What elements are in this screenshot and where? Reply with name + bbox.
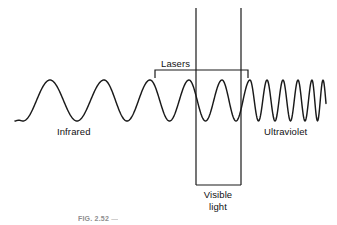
spectrum-diagram-svg — [0, 0, 337, 225]
figure-caption-number: FIG. 2.52 — [78, 215, 109, 222]
lasers-bracket-path — [155, 70, 248, 78]
label-infrared: Infrared — [57, 126, 91, 137]
label-ultraviolet: Ultraviolet — [264, 126, 307, 137]
label-lasers: Lasers — [161, 58, 190, 69]
spectrum-wave-path — [15, 80, 326, 121]
label-visible-light: Visible light — [196, 189, 240, 212]
label-visible-light-line1: Visible — [196, 189, 240, 201]
figure-caption-text: — — [111, 215, 118, 222]
visible-light-box — [196, 8, 241, 185]
figure-container: Infrared Ultraviolet Lasers Visible ligh… — [0, 0, 337, 225]
figure-caption: FIG. 2.52 — — [78, 215, 118, 225]
label-visible-light-line2: light — [196, 201, 240, 213]
lasers-bracket — [155, 70, 248, 78]
